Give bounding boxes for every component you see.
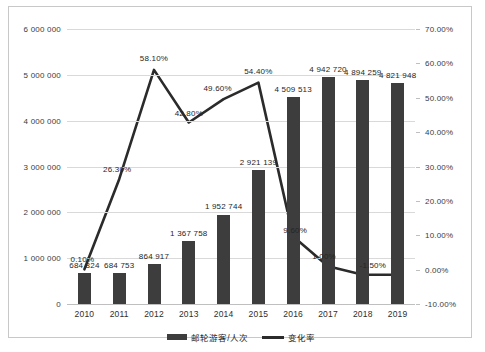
x-axis-tick-2016: 2016 xyxy=(283,309,303,319)
change-rate-label-2017: 1.00% xyxy=(312,252,336,261)
bar-value-label-2018: 4 894 259 xyxy=(344,68,381,77)
y-axis-right-tick-mark xyxy=(416,270,420,271)
x-axis-tick-2017: 2017 xyxy=(318,309,338,319)
bar-2010 xyxy=(78,273,91,304)
axis-baseline xyxy=(67,304,415,305)
change-rate-label-2011: 26.30% xyxy=(103,165,131,174)
y-axis-right-tick-label: 20.00% xyxy=(425,196,453,205)
bar-value-label-2014: 1 952 744 xyxy=(205,202,242,211)
bar-value-label-2013: 1 367 758 xyxy=(170,229,207,238)
change-rate-label-2013: 42.80% xyxy=(175,109,203,118)
bar-2017 xyxy=(322,77,335,304)
x-axis-tick-2014: 2014 xyxy=(214,309,234,319)
y-axis-left-tick-label: 0 xyxy=(56,300,61,309)
bar-swatch-icon xyxy=(167,334,187,340)
y-axis-right-tick-label: -10.00% xyxy=(425,300,456,309)
x-axis-tick-2011: 2011 xyxy=(110,309,129,319)
line-swatch-icon xyxy=(262,336,284,339)
y-axis-right-tick-mark xyxy=(416,235,420,236)
bar-2015 xyxy=(252,170,265,304)
chart-legend: 邮轮游客/人次 变化率 xyxy=(67,329,415,345)
bar-value-label-2016: 4 509 513 xyxy=(274,85,311,94)
y-axis-left-tick-label: 1 000 000 xyxy=(24,254,61,263)
y-axis-right-tick-mark xyxy=(416,29,420,30)
y-axis-right-tick-label: 60.00% xyxy=(425,59,453,68)
bar-2012 xyxy=(148,264,161,304)
y-axis-left-tick-label: 3 000 000 xyxy=(24,162,61,171)
change-rate-label-2012: 58.10% xyxy=(140,54,168,63)
x-axis-tick-2018: 2018 xyxy=(353,309,373,319)
bar-value-label-2017: 4 942 720 xyxy=(309,65,346,74)
bar-value-label-2019: 4 821 948 xyxy=(379,71,416,80)
plot-area: 01 000 0002 000 0003 000 0004 000 0005 0… xyxy=(67,29,415,304)
legend-label-cruise-passengers: 邮轮游客/人次 xyxy=(191,331,247,343)
bar-2019 xyxy=(391,83,404,304)
bar-2018 xyxy=(356,80,369,304)
bar-value-label-2011: 684 753 xyxy=(104,261,134,270)
change-rate-label-2018: -1.50% xyxy=(360,261,387,270)
legend-item-change-rate: 变化率 xyxy=(262,331,315,343)
y-axis-right-tick-label: 50.00% xyxy=(425,93,453,102)
bar-2016 xyxy=(287,97,300,304)
x-axis-tick-2015: 2015 xyxy=(249,309,269,319)
y-axis-right-tick-mark xyxy=(416,63,420,64)
x-axis-tick-2019: 2019 xyxy=(388,309,408,319)
y-axis-right-tick-label: 70.00% xyxy=(425,25,453,34)
y-axis-right-tick-label: 10.00% xyxy=(425,231,453,240)
y-axis-right-tick-label: 0.00% xyxy=(425,265,449,274)
chart-screenshot: 01 000 0002 000 0003 000 0004 000 0005 0… xyxy=(0,0,485,352)
y-axis-right-tick-mark xyxy=(416,201,420,202)
gridline xyxy=(67,29,415,30)
y-axis-left-tick-label: 6 000 000 xyxy=(24,25,61,34)
bar-2011 xyxy=(113,273,126,304)
y-axis-right-tick-mark xyxy=(416,304,420,305)
change-rate-line xyxy=(84,70,397,275)
y-axis-right-tick-label: 30.00% xyxy=(425,162,453,171)
change-rate-label-2015: 54.40% xyxy=(244,67,272,76)
change-rate-label-2014: 49.60% xyxy=(203,84,231,93)
bar-2014 xyxy=(217,215,230,305)
change-rate-label-2010: 0.10% xyxy=(71,255,95,264)
y-axis-left-tick-label: 2 000 000 xyxy=(24,208,61,217)
chart-frame: 01 000 0002 000 0003 000 0004 000 0005 0… xyxy=(8,6,472,338)
bar-2013 xyxy=(182,241,195,304)
bar-value-label-2012: 864 917 xyxy=(139,252,169,261)
x-axis-tick-2012: 2012 xyxy=(144,309,164,319)
legend-item-cruise-passengers: 邮轮游客/人次 xyxy=(167,331,247,343)
change-rate-label-2016: 9.60% xyxy=(283,226,307,235)
y-axis-right-tick-mark xyxy=(416,98,420,99)
y-axis-right-tick-label: 40.00% xyxy=(425,128,453,137)
y-axis-right-tick-mark xyxy=(416,167,420,168)
legend-label-change-rate: 变化率 xyxy=(288,331,315,343)
y-axis-right-tick-mark xyxy=(416,132,420,133)
bar-value-label-2015: 2 921 139 xyxy=(240,158,277,167)
x-axis-tick-2010: 2010 xyxy=(75,309,95,319)
y-axis-left-tick-label: 4 000 000 xyxy=(24,116,61,125)
y-axis-left-tick-label: 5 000 000 xyxy=(24,70,61,79)
x-axis-tick-2013: 2013 xyxy=(179,309,199,319)
